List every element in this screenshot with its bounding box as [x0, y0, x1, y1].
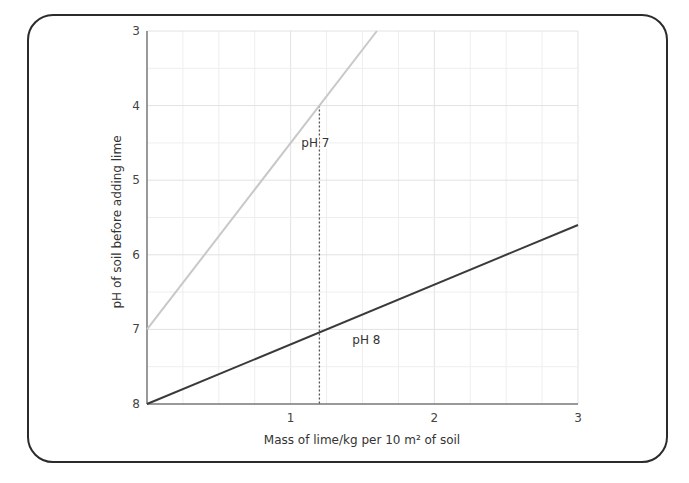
y-tick: 7 [132, 322, 140, 336]
x-tick: 1 [287, 411, 295, 425]
chart: 345678 123 pH 7pH 8 Mass of lime/kg per … [0, 0, 689, 483]
y-tick: 5 [132, 173, 140, 187]
series-annotation: pH 8 [352, 333, 380, 347]
x-axis-label: Mass of lime/kg per 10 m² of soil [264, 433, 460, 447]
grid [147, 31, 578, 404]
series-annotation: pH 7 [301, 136, 329, 150]
y-tick: 4 [132, 99, 140, 113]
y-tick-labels: 345678 [132, 24, 140, 411]
y-axis-label: pH of soil before adding lime [110, 135, 124, 308]
x-tick: 3 [574, 411, 582, 425]
x-tick-labels: 123 [287, 411, 582, 425]
annotations: pH 7pH 8 [301, 136, 380, 348]
x-tick: 2 [431, 411, 439, 425]
y-tick: 8 [132, 397, 140, 411]
y-tick: 6 [132, 248, 140, 262]
y-tick: 3 [132, 24, 140, 38]
